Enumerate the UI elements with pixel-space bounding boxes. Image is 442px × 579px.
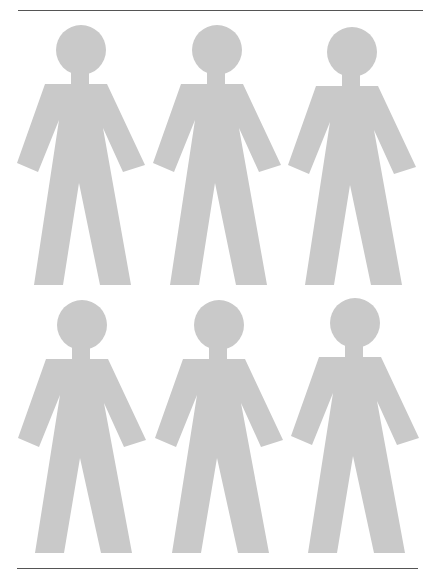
head-shape (327, 27, 377, 77)
person-figure-1 (17, 25, 145, 285)
head-shape (56, 25, 106, 75)
person-icon (288, 86, 416, 285)
person-figure-6 (291, 298, 419, 553)
figures-layer (0, 0, 442, 579)
figure-grid (0, 0, 442, 579)
person-icon (17, 84, 145, 285)
person-icon (155, 359, 283, 553)
person-figure-2 (153, 25, 281, 285)
person-icon (291, 357, 419, 553)
person-icon (153, 84, 281, 285)
head-shape (194, 300, 244, 350)
person-figure-3 (288, 27, 416, 285)
head-shape (192, 25, 242, 75)
person-figure-4 (18, 300, 146, 553)
head-shape (330, 298, 380, 348)
person-figure-5 (155, 300, 283, 553)
person-icon (18, 359, 146, 553)
head-shape (57, 300, 107, 350)
